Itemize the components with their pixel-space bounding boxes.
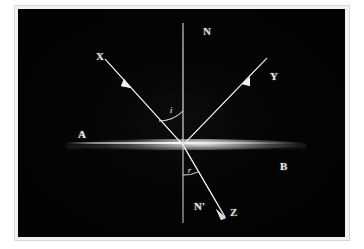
label-angle-of-incidence: i xyxy=(170,107,172,115)
reflected-ray-arrowhead xyxy=(242,77,250,86)
label-normal-above: N xyxy=(203,26,211,37)
incident-ray-line xyxy=(105,59,183,145)
label-medium-a: A xyxy=(78,129,86,140)
label-reflected-ray: Y xyxy=(270,71,278,82)
label-normal-below: N' xyxy=(194,201,205,212)
incident-ray-arrowhead xyxy=(121,79,131,88)
label-angle-of-refraction: r xyxy=(188,167,191,175)
diagram-page: N X Y Z A B N' i r xyxy=(0,0,364,249)
diagram-canvas: N X Y Z A B N' i r xyxy=(18,9,345,237)
reflected-ray-line xyxy=(183,58,267,145)
label-refracted-ray: Z xyxy=(230,207,237,218)
ray-diagram-svg xyxy=(18,9,345,237)
label-incident-ray: X xyxy=(96,51,104,62)
label-medium-b: B xyxy=(280,161,287,172)
